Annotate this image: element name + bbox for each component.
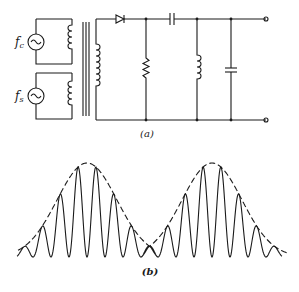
resistor-branch <box>143 18 149 122</box>
part-a-label: (a) <box>140 128 154 139</box>
envelope-dashed <box>18 163 288 253</box>
transformer-core <box>83 22 89 116</box>
shunt-capacitor-branch <box>225 18 237 122</box>
carrier-waveform <box>17 167 282 257</box>
secondary-coil <box>96 19 100 120</box>
figure: fc fs (a) (b) <box>0 0 299 292</box>
signal-source-loop <box>28 73 72 119</box>
series-capacitor-icon <box>170 13 174 25</box>
primary-coil-2 <box>68 73 72 119</box>
source-label-fc: fc <box>14 35 24 50</box>
shunt-inductor-branch <box>196 18 201 122</box>
inductor-icon <box>197 19 201 120</box>
carrier-source-loop <box>28 19 72 64</box>
source-label-fs: fs <box>14 89 24 104</box>
part-b-label: (b) <box>142 266 159 277</box>
primary-coil-1 <box>68 19 72 64</box>
diode-icon <box>116 15 124 23</box>
circuit-diagram <box>28 13 268 122</box>
modulated-waveform <box>17 163 288 257</box>
resistor-icon <box>143 19 149 120</box>
